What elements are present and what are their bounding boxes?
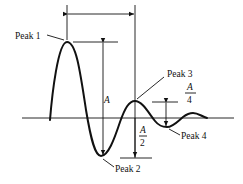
half-fraction-numerator: A bbox=[139, 125, 146, 135]
peak1-leader bbox=[47, 35, 64, 40]
peak3-label: Peak 3 bbox=[167, 69, 193, 79]
peak4-label: Peak 4 bbox=[181, 131, 207, 141]
peak1-label: Peak 1 bbox=[15, 31, 41, 41]
peak3-leader bbox=[137, 77, 164, 99]
peak4-leader bbox=[169, 129, 180, 135]
peak2-leader bbox=[103, 159, 114, 167]
quarter-fraction-numerator: A bbox=[186, 82, 193, 92]
half-fraction-denominator: 2 bbox=[140, 138, 145, 148]
peak2-label: Peak 2 bbox=[115, 164, 141, 174]
quarter-fraction-denominator: 4 bbox=[187, 95, 192, 105]
amplitude-label: A bbox=[103, 95, 110, 105]
damped-oscillation-diagram: Peak 1 Peak 2 Peak 3 Peak 4 A A 2 A 4 bbox=[0, 0, 243, 184]
